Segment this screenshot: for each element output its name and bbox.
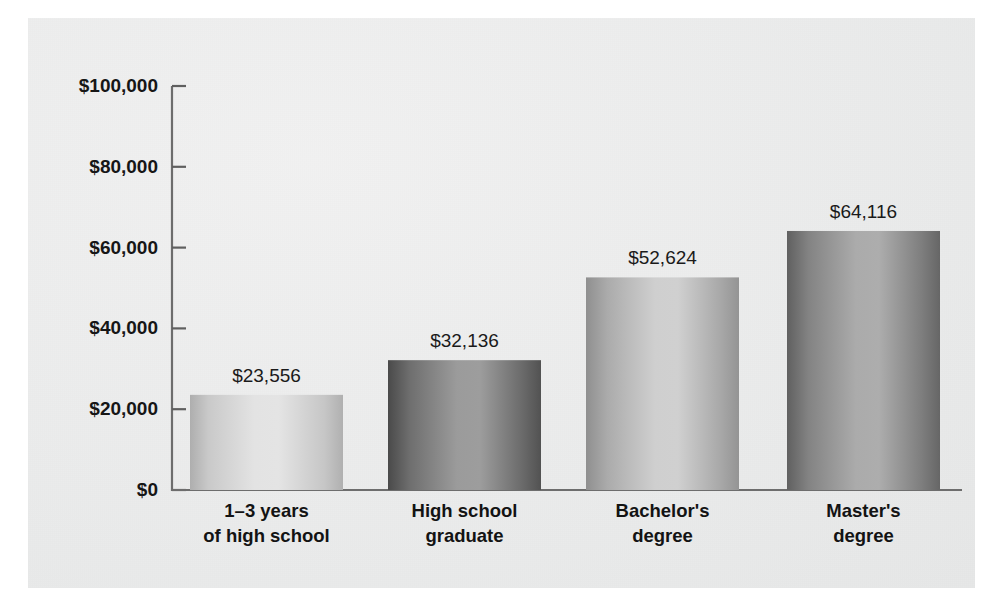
bar-value-label: $64,116 (830, 201, 897, 222)
bar[interactable] (388, 360, 541, 490)
y-tick-label: $20,000 (89, 398, 158, 419)
category-label-line: graduate (425, 525, 503, 546)
y-tick-label: $80,000 (89, 156, 158, 177)
category-label-line: 1–3 years (224, 500, 308, 521)
figure-container: $0$20,000$40,000$60,000$80,000$100,000 $… (0, 0, 1002, 616)
bar-value-label: $52,624 (628, 247, 697, 268)
x-axis-category-label: 1–3 yearsof high school (203, 500, 329, 546)
category-label-line: of high school (203, 525, 329, 546)
y-tick-label: $40,000 (89, 317, 158, 338)
y-axis-ticks (172, 86, 186, 490)
category-label-line: Bachelor's (616, 500, 710, 521)
bar[interactable] (787, 231, 940, 490)
y-axis: $0$20,000$40,000$60,000$80,000$100,000 (79, 75, 186, 500)
category-label-line: degree (632, 525, 693, 546)
y-tick-label: $60,000 (89, 237, 158, 258)
bar-value-label: $23,556 (232, 365, 301, 386)
y-tick-label: $100,000 (79, 75, 158, 96)
x-axis-category-label: Bachelor'sdegree (616, 500, 710, 546)
x-axis-category-labels: 1–3 yearsof high schoolHigh schoolgradua… (203, 500, 900, 546)
category-label-line: Master's (826, 500, 900, 521)
bar[interactable] (586, 277, 739, 490)
bar-value-label: $32,136 (430, 330, 499, 351)
category-label-line: degree (833, 525, 894, 546)
y-axis-tick-labels: $0$20,000$40,000$60,000$80,000$100,000 (79, 75, 158, 500)
bar[interactable] (190, 395, 343, 490)
bar-series (190, 231, 940, 490)
bar-chart: $0$20,000$40,000$60,000$80,000$100,000 $… (0, 0, 1002, 616)
x-axis-category-label: Master'sdegree (826, 500, 900, 546)
category-label-line: High school (412, 500, 518, 521)
x-axis-category-label: High schoolgraduate (412, 500, 518, 546)
y-tick-label: $0 (137, 479, 158, 500)
